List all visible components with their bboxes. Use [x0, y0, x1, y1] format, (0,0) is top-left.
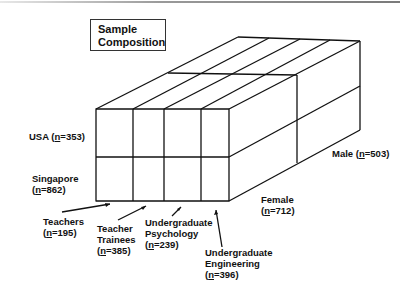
row-name: USA [29, 131, 49, 142]
column-name: Teachers [43, 216, 84, 227]
column-count-line: (n=195) [43, 227, 84, 238]
depth-name: Female [261, 194, 295, 205]
depth-label-male: Male (n=503) [332, 148, 389, 159]
right-row-divider [229, 86, 360, 157]
column-name-line-2: Engineering [205, 258, 273, 269]
column-name-line-2: Trainees [97, 234, 136, 245]
column-label-undergraduate-engineering: Undergraduate Engineering (n=396) [205, 247, 273, 280]
n-symbol: n [264, 205, 270, 216]
engineering-arrow [216, 210, 222, 247]
column-label-undergraduate-psychology: Undergraduate Psychology (n=239) [145, 217, 213, 250]
front-face [96, 109, 229, 201]
column-count-line: (n=239) [145, 239, 213, 250]
n-symbol: n [100, 245, 106, 256]
row-name: Singapore [32, 173, 78, 184]
n-symbol: n [55, 131, 61, 142]
n-symbol: n [46, 227, 52, 238]
title-line-2: Composition [98, 36, 165, 49]
n-symbol: n [208, 269, 214, 280]
column-count: 385 [112, 245, 128, 256]
row-count: 353 [66, 131, 82, 142]
n-symbol: n [35, 184, 41, 195]
column-count: 195 [58, 227, 74, 238]
column-count-line: (n=396) [205, 269, 273, 280]
row-count-line: (n=862) [32, 184, 78, 195]
sample-composition-title: Sample Composition [90, 19, 166, 51]
column-label-teacher-trainees: Teacher Trainees (n=385) [97, 223, 136, 256]
column-count-line: (n=385) [97, 245, 136, 256]
depth-count: 503 [370, 148, 386, 159]
column-label-teachers: Teachers (n=195) [43, 216, 84, 238]
column-count: 239 [160, 239, 176, 250]
depth-name: Male [332, 148, 353, 159]
n-symbol: n [148, 239, 154, 250]
column-name-line-2: Psychology [145, 228, 213, 239]
column-name-line-1: Teacher [97, 223, 136, 234]
n-symbol: n [359, 148, 365, 159]
row-label-usa: USA (n=353) [29, 131, 85, 142]
column-name-line-1: Undergraduate [145, 217, 213, 228]
teachers-arrow [62, 204, 110, 212]
row-label-singapore: Singapore (n=862) [32, 173, 78, 195]
trainees-arrowhead [141, 206, 146, 210]
depth-count-line: (n=712) [261, 205, 295, 216]
column-name-line-1: Undergraduate [205, 247, 273, 258]
right-bottom-edge [229, 130, 360, 201]
depth-count: 712 [276, 205, 292, 216]
column-count: 396 [220, 269, 236, 280]
title-line-1: Sample [98, 23, 165, 36]
engineering-arrowhead [214, 210, 218, 215]
depth-label-female: Female (n=712) [261, 194, 295, 216]
row-count: 862 [47, 184, 63, 195]
